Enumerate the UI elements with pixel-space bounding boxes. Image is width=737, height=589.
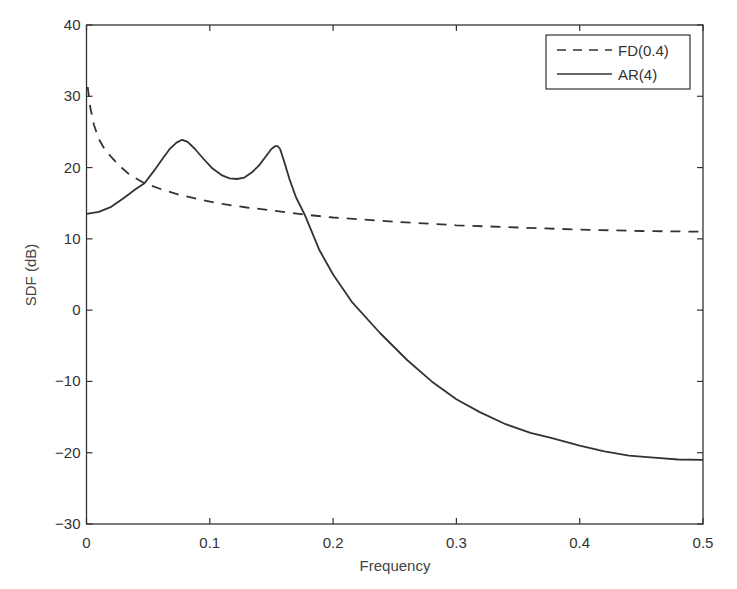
legend-label-ar: AR(4) xyxy=(618,66,657,83)
y-tick-label: 10 xyxy=(64,230,81,247)
x-tick-label: 0.4 xyxy=(569,534,590,551)
legend: FD(0.4) AR(4) xyxy=(546,35,690,89)
y-tick-label: −30 xyxy=(55,515,80,532)
x-axis-ticks: 00.10.20.30.40.5 xyxy=(82,25,713,551)
y-tick-label: 0 xyxy=(72,301,80,318)
legend-label-fd: FD(0.4) xyxy=(618,42,669,59)
plot-frame xyxy=(87,25,704,524)
y-tick-label: −20 xyxy=(55,444,80,461)
series-ar-4 xyxy=(87,140,704,460)
x-axis-label: Frequency xyxy=(360,557,431,574)
x-tick-label: 0.2 xyxy=(323,534,344,551)
sdf-chart: 00.10.20.30.40.5 −30−20−10010203040 Freq… xyxy=(0,0,737,589)
y-tick-label: −10 xyxy=(55,372,80,389)
y-axis-label: SDF (dB) xyxy=(22,244,39,307)
series-layer xyxy=(87,87,704,460)
y-tick-label: 40 xyxy=(64,16,81,33)
x-tick-label: 0.5 xyxy=(693,534,714,551)
x-tick-label: 0 xyxy=(82,534,90,551)
y-axis-ticks: −30−20−10010203040 xyxy=(55,16,703,532)
x-tick-label: 0.1 xyxy=(199,534,220,551)
x-tick-label: 0.3 xyxy=(446,534,467,551)
plot-area: 00.10.20.30.40.5 −30−20−10010203040 xyxy=(55,16,713,551)
series-fd-0-4 xyxy=(88,87,703,232)
y-tick-label: 20 xyxy=(64,159,81,176)
y-tick-label: 30 xyxy=(64,87,81,104)
